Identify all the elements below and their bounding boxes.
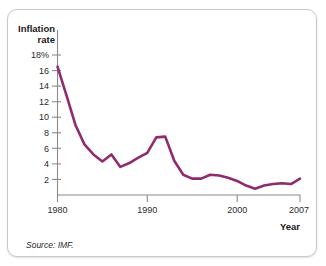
source-note: Source: IMF. [26, 240, 74, 250]
x-axis-ticks [58, 195, 301, 202]
x-tick-label-2007: 2007 [289, 205, 309, 215]
chart-figure-frame: Inflation rate 18% 16 14 12 10 8 6 4 2 [7, 9, 317, 257]
y-axis-title-line2: rate [38, 34, 55, 45]
x-tick-label-2000: 2000 [227, 205, 247, 215]
y-tick-label-12: 12 [39, 97, 49, 107]
x-tick-label-1990: 1990 [137, 205, 157, 215]
y-tick-label-4: 4 [44, 159, 49, 169]
x-tick-label-1980: 1980 [47, 205, 67, 215]
x-axis-title: Year [280, 221, 300, 232]
y-tick-label-2: 2 [44, 175, 49, 185]
inflation-rate-line-chart: Inflation rate 18% 16 14 12 10 8 6 4 2 [8, 10, 318, 258]
y-tick-label-18: 18% [31, 50, 49, 60]
y-tick-label-10: 10 [39, 112, 49, 122]
y-tick-label-6: 6 [44, 144, 49, 154]
y-tick-label-14: 14 [39, 81, 49, 91]
inflation-rate-series-line [58, 67, 301, 189]
y-tick-label-8: 8 [44, 128, 49, 138]
y-axis-title-line1: Inflation [18, 23, 55, 34]
y-tick-label-16: 16 [39, 66, 49, 76]
